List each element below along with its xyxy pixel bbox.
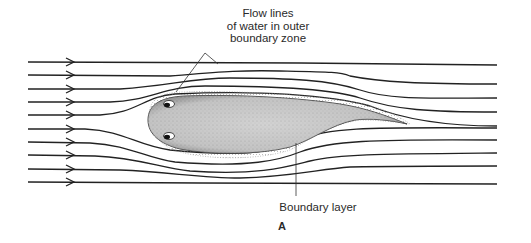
flow-lines-label: Flow lines of water in outer boundary zo… [208, 7, 328, 45]
panel-letter: A [274, 220, 290, 233]
flow-line-10 [28, 182, 497, 184]
flow-lines-label-line-1: Flow lines [208, 7, 328, 20]
flow-line-1 [28, 62, 497, 65]
eye-icon [164, 101, 175, 108]
eye-icon [164, 133, 175, 140]
flow-line-9 [28, 166, 497, 178]
flow-lines-label-line-2: of water in outer [208, 20, 328, 33]
body-stipple [148, 95, 407, 153]
boundary-layer-label: Boundary layer [262, 201, 374, 214]
arrowheads [66, 58, 74, 186]
flow-lines-label-line-3: boundary zone [208, 32, 328, 45]
flow-line-2 [28, 71, 497, 84]
